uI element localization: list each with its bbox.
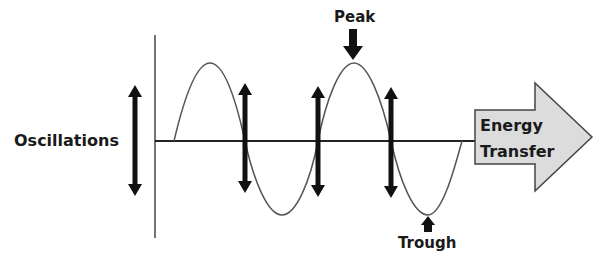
oscillations-label: Oscillations: [14, 131, 119, 150]
transverse-wave-diagram: Oscillations Peak Trough Energy Transfer: [0, 0, 608, 268]
transfer-label: Transfer: [480, 142, 555, 161]
trough-label: Trough: [398, 234, 456, 252]
energy-label: Energy: [480, 116, 544, 135]
oscillation-arrow-left: [128, 85, 142, 196]
oscillation-arrow-1: [238, 83, 252, 193]
peak-label: Peak: [334, 8, 376, 26]
oscillation-arrow-3: [384, 87, 398, 198]
peak-arrow-icon: [343, 29, 363, 60]
trough-arrow-icon: [421, 216, 435, 232]
energy-transfer-arrow: [475, 83, 592, 191]
